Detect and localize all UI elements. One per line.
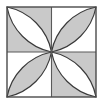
four-petal-pattern-svg — [0, 0, 103, 104]
figure-root: Square tile divided into four quadrants … — [0, 0, 103, 104]
